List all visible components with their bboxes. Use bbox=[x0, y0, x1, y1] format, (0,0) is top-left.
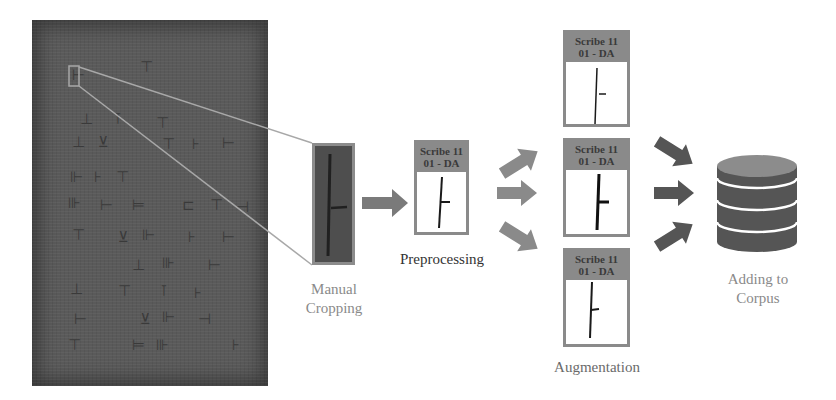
glyph: ⊨ bbox=[132, 198, 145, 213]
glyph: ⊪ bbox=[156, 338, 169, 353]
card-header-line: 01 - DA bbox=[566, 155, 627, 167]
glyph: ⊤ bbox=[118, 284, 131, 299]
label-line: Adding to bbox=[712, 270, 804, 289]
glyph: ⊪ bbox=[162, 256, 175, 271]
augmentation-card: Scribe 11 01 - DA bbox=[563, 30, 630, 127]
glyph: ⊦ bbox=[194, 286, 202, 301]
card-header: Scribe 11 01 - DA bbox=[566, 33, 627, 62]
card-header-line: Scribe 11 bbox=[566, 35, 627, 47]
card-header-line: Scribe 11 bbox=[566, 143, 627, 155]
tablet-image: ⊢ ⊤ ⊥ ⊺ ⊤ ⊥ ⊻ ⊤ ⊦ ⊢ ⊩ ⊦ ⊤ ⊪ ⊢ ⊨ ⊏ ⊤ ⊣ ⊤ … bbox=[32, 20, 268, 386]
glyph: ⊦ bbox=[188, 230, 196, 245]
glyph: ⊤ bbox=[68, 338, 81, 353]
card-body bbox=[566, 170, 627, 234]
glyph: ⊤ bbox=[210, 198, 223, 213]
glyph: ⊥ bbox=[132, 258, 145, 273]
card-body bbox=[566, 62, 627, 124]
glyph: ⊤ bbox=[162, 137, 175, 152]
glyph: ⊻ bbox=[98, 135, 109, 150]
glyph: ⊢ bbox=[222, 230, 235, 245]
glyph: ⊢ bbox=[222, 136, 235, 151]
adding-to-corpus-label: Adding to Corpus bbox=[712, 270, 804, 308]
card-header: Scribe 11 01 - DA bbox=[566, 251, 627, 280]
glyph: ⊩ bbox=[162, 310, 175, 325]
card-header-line: 01 - DA bbox=[566, 47, 627, 59]
arrow-up-right-icon bbox=[650, 213, 699, 257]
cuneiform-sign-icon bbox=[417, 172, 466, 232]
glyph: ⊥ bbox=[72, 135, 85, 150]
database-icon bbox=[717, 155, 797, 252]
glyph: ⊺ bbox=[114, 112, 122, 127]
glyph: ⊻ bbox=[118, 230, 129, 245]
glyph: ⊦ bbox=[232, 338, 240, 353]
label-line: Manual bbox=[296, 280, 372, 299]
augmentation-label: Augmentation bbox=[536, 358, 658, 377]
glyph: ⊤ bbox=[116, 170, 129, 185]
cuneiform-sign-icon bbox=[566, 280, 627, 344]
manual-cropping-label: Manual Cropping bbox=[296, 280, 372, 318]
glyph: ⊻ bbox=[140, 312, 151, 327]
glyph: ⊏ bbox=[182, 198, 195, 213]
cuneiform-sign-icon bbox=[566, 62, 627, 124]
arrow-right-icon bbox=[497, 180, 537, 206]
glyph: ⊩ bbox=[142, 228, 155, 243]
arrow-down-right-icon bbox=[495, 215, 544, 259]
glyph: ⊢ bbox=[100, 198, 113, 213]
arrow-right-icon bbox=[362, 189, 408, 217]
card-header: Scribe 11 01 - DA bbox=[566, 141, 627, 170]
preprocessing-card: Scribe 11 01 - DA bbox=[414, 140, 469, 235]
cuneiform-sign-icon bbox=[566, 170, 627, 234]
card-header-line: 01 - DA bbox=[417, 157, 466, 169]
augmentation-card: Scribe 11 01 - DA bbox=[563, 138, 630, 237]
glyph: ⊥ bbox=[70, 282, 83, 297]
label-line: Cropping bbox=[296, 299, 372, 318]
glyph: ⊪ bbox=[68, 196, 81, 211]
augmentation-card: Scribe 11 01 - DA bbox=[563, 248, 630, 347]
glyph: ⊦ bbox=[94, 170, 102, 185]
card-header-line: Scribe 11 bbox=[566, 253, 627, 265]
glyph: ⊤ bbox=[140, 60, 153, 75]
card-header-line: 01 - DA bbox=[566, 265, 627, 277]
glyph: ⊢ bbox=[72, 68, 85, 83]
arrow-right-icon bbox=[654, 180, 694, 206]
glyph: ⊤ bbox=[72, 228, 85, 243]
glyph: ⊣ bbox=[236, 200, 249, 215]
glyph: ⊤ bbox=[156, 116, 169, 131]
glyph: ⊦ bbox=[192, 137, 200, 152]
cuneiform-sign-icon bbox=[315, 146, 352, 262]
glyph: ⊨ bbox=[132, 338, 145, 353]
glyph: ⊣ bbox=[198, 312, 211, 327]
preprocessing-label: Preprocessing bbox=[388, 250, 496, 269]
cropped-sign-image bbox=[312, 143, 355, 265]
glyph: ⊥ bbox=[80, 112, 93, 127]
card-body bbox=[417, 172, 466, 232]
glyph: ⊺ bbox=[160, 284, 168, 299]
glyph: ⊢ bbox=[74, 312, 87, 327]
card-header-line: Scribe 11 bbox=[417, 145, 466, 157]
glyph: ⊩ bbox=[70, 170, 83, 185]
arrow-up-right-icon bbox=[495, 140, 544, 184]
arrow-down-right-icon bbox=[650, 130, 699, 174]
glyph: ⊢ bbox=[208, 258, 221, 273]
card-header: Scribe 11 01 - DA bbox=[417, 143, 466, 172]
card-body bbox=[566, 280, 627, 344]
label-line: Corpus bbox=[712, 289, 804, 308]
